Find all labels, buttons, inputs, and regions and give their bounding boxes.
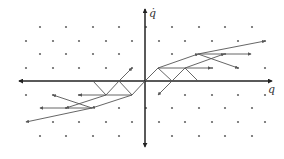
vertical-axis-label: q̇ — [149, 8, 156, 19]
lattice-dot — [78, 121, 80, 123]
lattice-dot — [78, 67, 80, 69]
trajectory-arrow — [92, 95, 132, 108]
lattice-dot — [211, 67, 213, 69]
lattice-dot — [65, 53, 67, 55]
trajectory-segment — [172, 68, 185, 81]
lattice-dot — [251, 135, 253, 137]
lattice-dot — [158, 121, 160, 123]
lattice-dot — [237, 40, 239, 42]
trajectory-segment — [106, 81, 119, 95]
lattice-dot — [251, 26, 253, 28]
trajectory-arrow — [119, 68, 132, 81]
lattice-dot — [184, 40, 186, 42]
horizontal-axis-label: q — [268, 84, 275, 95]
lattice-dot — [237, 121, 239, 123]
lattice-dot — [78, 40, 80, 42]
trajectory-arrow — [198, 41, 265, 54]
lattice-dot — [131, 40, 133, 42]
trajectory-segment — [93, 81, 106, 95]
lattice-dot — [25, 94, 27, 96]
lattice-dot — [171, 135, 173, 137]
trajectory-segment — [145, 68, 158, 81]
lattice-dot — [65, 26, 67, 28]
lattice-dot — [52, 67, 54, 69]
lattice-dot — [118, 53, 120, 55]
lattice-dot — [224, 107, 226, 109]
lattice-dot — [237, 94, 239, 96]
lattice-dot — [105, 67, 107, 69]
lattice-dot — [198, 135, 200, 137]
lattice-dot — [39, 53, 41, 55]
lattice-dot — [224, 135, 226, 137]
lattice-dot — [264, 67, 266, 69]
lattice-dot — [92, 135, 94, 137]
lattice-dot — [171, 26, 173, 28]
lattice-dot — [118, 135, 120, 137]
trajectory-segment — [119, 81, 132, 95]
lattice-dot — [198, 26, 200, 28]
lattice-dot — [105, 121, 107, 123]
lattice-dot — [118, 26, 120, 28]
trajectory-arrow — [26, 108, 92, 122]
lattice-dot — [39, 26, 41, 28]
lattice-dot — [251, 107, 253, 109]
lattice-dot — [211, 121, 213, 123]
lattice-dot — [92, 53, 94, 55]
lattice-dot — [52, 121, 54, 123]
lattice-dot — [25, 67, 27, 69]
lattice-dot — [198, 107, 200, 109]
lattice-dot — [184, 94, 186, 96]
lattice-dot — [92, 26, 94, 28]
lattice-dot — [264, 121, 266, 123]
trajectory-segment — [158, 68, 172, 81]
lattice-dot — [264, 94, 266, 96]
trajectory-segment — [185, 68, 198, 81]
lattice-dot — [25, 40, 27, 42]
lattice-dot — [184, 121, 186, 123]
axes — [19, 9, 272, 147]
phase-space-diagram — [0, 0, 284, 159]
lattice-dot — [52, 40, 54, 42]
lattice-dot — [224, 26, 226, 28]
lattice-dot — [65, 135, 67, 137]
trajectory-segment — [132, 81, 145, 95]
lattice-dot — [105, 40, 107, 42]
lattice-dot — [171, 107, 173, 109]
lattice-dot — [158, 40, 160, 42]
lattice-dot — [39, 135, 41, 137]
lattice-dot — [211, 40, 213, 42]
lattice-dot — [171, 53, 173, 55]
lattice-dot — [211, 94, 213, 96]
trajectory-arrow — [158, 81, 172, 95]
lattice-dot — [118, 107, 120, 109]
lattice-dot — [131, 121, 133, 123]
